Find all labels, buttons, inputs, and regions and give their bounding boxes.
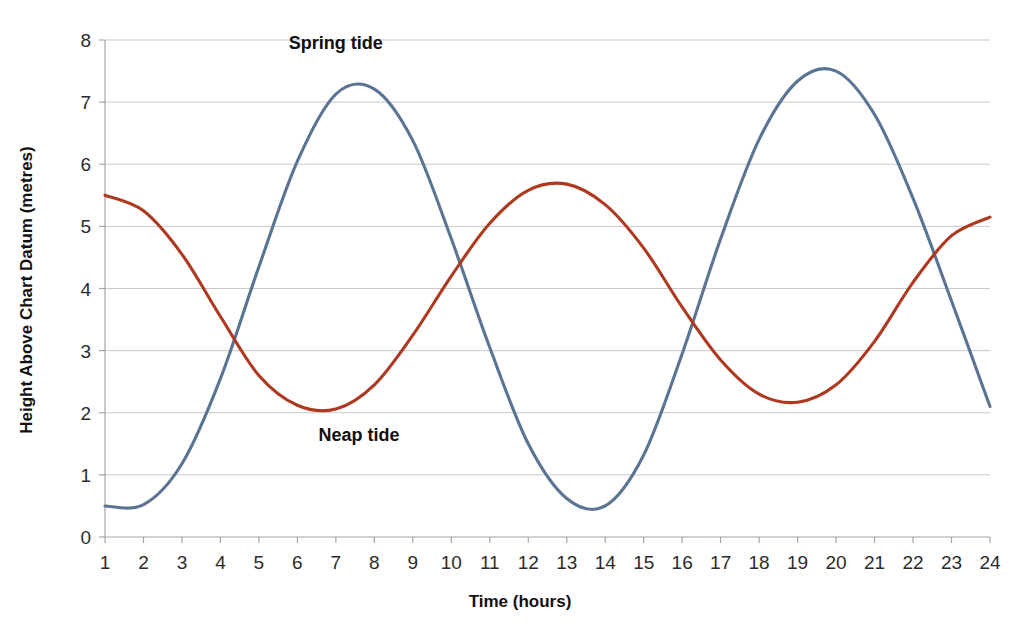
x-tick-label: 10 (441, 552, 462, 573)
annotation-spring-tide: Spring tide (289, 33, 383, 53)
x-tick-label: 23 (941, 552, 962, 573)
x-tick-label: 13 (556, 552, 577, 573)
x-tick-label: 5 (254, 552, 265, 573)
y-tick-label: 2 (80, 403, 91, 424)
x-tick-label: 16 (672, 552, 693, 573)
tide-chart-figure: 012345678 123456789101112131415161718192… (0, 0, 1035, 630)
y-axis-title: Height Above Chart Datum (metres) (17, 146, 36, 433)
x-tick-label: 22 (902, 552, 923, 573)
x-tick-label: 6 (292, 552, 303, 573)
x-tick-label: 11 (480, 552, 500, 573)
x-tick-label: 20 (826, 552, 847, 573)
annotation-neap-tide: Neap tide (318, 425, 399, 445)
x-tick-label: 15 (633, 552, 654, 573)
x-tick-label: 21 (864, 552, 885, 573)
x-tick-label: 8 (369, 552, 380, 573)
x-tick-label: 19 (787, 552, 808, 573)
tide-chart-svg: 012345678 123456789101112131415161718192… (0, 0, 1035, 630)
y-tick-label: 7 (80, 92, 91, 113)
x-tick-label: 18 (749, 552, 770, 573)
x-tick-label: 4 (215, 552, 226, 573)
y-tick-label: 3 (80, 341, 91, 362)
x-tick-label: 24 (979, 552, 1001, 573)
x-tick-label: 14 (595, 552, 617, 573)
y-tick-label: 0 (80, 527, 91, 548)
chart-background (0, 0, 1035, 630)
y-tick-label: 8 (80, 30, 91, 51)
x-tick-label: 1 (100, 552, 111, 573)
x-axis-title: Time (hours) (469, 592, 572, 611)
x-tick-label: 7 (331, 552, 342, 573)
y-tick-label: 6 (80, 154, 91, 175)
x-tick-label: 3 (177, 552, 188, 573)
x-tick-label: 12 (518, 552, 539, 573)
x-tick-label: 2 (138, 552, 149, 573)
y-tick-label: 4 (80, 279, 91, 300)
x-tick-label: 9 (408, 552, 419, 573)
y-tick-label: 1 (80, 465, 91, 486)
y-tick-label: 5 (80, 216, 91, 237)
x-tick-label: 17 (710, 552, 731, 573)
